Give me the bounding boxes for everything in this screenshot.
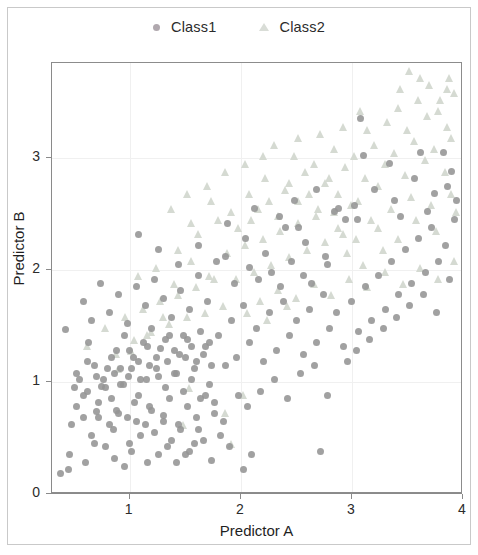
data-point-class1: [273, 347, 280, 354]
data-point-class1: [206, 339, 213, 346]
data-point-class1: [195, 272, 202, 279]
data-point-class1: [344, 358, 351, 365]
data-point-class1: [84, 388, 91, 395]
data-point-class1: [220, 418, 227, 425]
data-point-class1: [95, 399, 102, 406]
circle-marker-icon: [153, 24, 160, 31]
data-point-class2: [394, 104, 402, 112]
data-point-class1: [193, 414, 200, 421]
data-point-class1: [433, 309, 440, 316]
chart-legend: Class1 Class2: [0, 16, 478, 38]
data-point-class1: [268, 269, 275, 276]
data-point-class1: [360, 152, 367, 159]
data-point-class2: [452, 208, 460, 216]
data-point-class2: [261, 174, 269, 182]
data-point-class2: [310, 160, 318, 168]
data-point-class1: [242, 235, 249, 242]
data-point-class2: [405, 67, 413, 75]
data-point-class2: [194, 230, 202, 238]
data-point-class1: [288, 258, 295, 265]
data-point-class1: [88, 432, 95, 439]
data-point-class1: [213, 258, 220, 265]
data-point-class1: [276, 213, 283, 220]
data-point-class1: [300, 272, 307, 279]
data-point-class1: [162, 384, 169, 391]
data-point-class1: [277, 283, 284, 290]
data-point-class2: [267, 261, 275, 269]
data-point-class2: [445, 74, 453, 82]
data-point-class2: [350, 152, 358, 160]
data-point-class2: [241, 241, 249, 249]
data-point-class1: [442, 242, 449, 249]
data-point-class1: [354, 216, 361, 223]
data-point-class1: [184, 403, 191, 410]
data-point-class1: [397, 213, 404, 220]
plot-panel: [51, 62, 462, 493]
data-point-class1: [155, 246, 162, 253]
data-point-class1: [284, 395, 291, 402]
data-point-class1: [104, 365, 111, 372]
data-point-class2: [312, 212, 320, 220]
y-tick: [46, 269, 51, 270]
data-point-class2: [187, 219, 195, 227]
data-point-class1: [80, 414, 87, 421]
data-point-class1: [271, 376, 278, 383]
data-point-class1: [446, 276, 453, 283]
data-point-class2: [292, 294, 300, 302]
data-point-class2: [361, 174, 369, 182]
data-point-class1: [62, 326, 69, 333]
data-point-class2: [130, 336, 138, 344]
data-point-class1: [95, 414, 102, 421]
data-point-class2: [334, 224, 342, 232]
data-point-class2: [410, 137, 418, 145]
x-tick-label: 4: [447, 501, 477, 517]
data-point-class2: [379, 246, 387, 254]
x-tick: [351, 494, 352, 499]
data-point-class1: [215, 332, 222, 339]
data-point-class2: [174, 246, 182, 254]
data-point-class1: [368, 317, 375, 324]
data-point-class1: [408, 280, 415, 287]
x-axis-title: Predictor A: [51, 522, 462, 539]
data-point-class2: [434, 275, 442, 283]
data-point-class1: [255, 276, 262, 283]
data-point-class1: [351, 202, 358, 209]
data-point-class1: [395, 291, 402, 298]
data-point-class1: [57, 470, 64, 477]
data-point-class1: [313, 339, 320, 346]
data-point-class1: [111, 455, 118, 462]
data-point-class2: [270, 141, 278, 149]
data-point-class2: [436, 96, 444, 104]
data-point-class2: [187, 257, 195, 265]
data-point-class1: [85, 339, 92, 346]
data-point-class1: [262, 250, 269, 257]
x-tick-label: 2: [225, 501, 255, 517]
data-point-class1: [108, 395, 115, 402]
data-point-class2: [241, 160, 249, 168]
data-point-class1: [342, 216, 349, 223]
data-point-class1: [402, 246, 409, 253]
data-point-class1: [208, 457, 215, 464]
data-point-class1: [155, 373, 162, 380]
data-point-class1: [353, 347, 360, 354]
data-point-class1: [282, 224, 289, 231]
data-point-class2: [183, 190, 191, 198]
data-point-class1: [182, 354, 189, 361]
data-point-class1: [180, 332, 187, 339]
data-point-class2: [443, 85, 451, 93]
data-point-class1: [66, 451, 73, 458]
data-point-class2: [401, 171, 409, 179]
y-tick: [46, 157, 51, 158]
data-point-class2: [387, 205, 395, 213]
data-point-class2: [370, 141, 378, 149]
data-point-class2: [434, 107, 442, 115]
data-point-class2: [259, 152, 267, 160]
data-point-class1: [106, 309, 113, 316]
data-point-class2: [407, 193, 415, 201]
data-point-class1: [125, 373, 132, 380]
data-point-class2: [143, 331, 151, 339]
y-tick-label: 0: [14, 484, 40, 500]
data-point-class2: [314, 205, 322, 213]
data-point-class1: [322, 253, 329, 260]
data-point-class1: [448, 168, 455, 175]
